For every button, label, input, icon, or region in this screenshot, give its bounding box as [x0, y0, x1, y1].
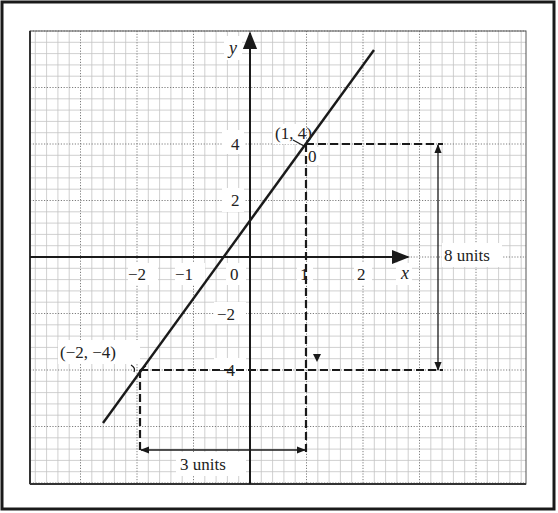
y-tick-label: −4	[217, 361, 236, 380]
point-b-label: (−2, −4)	[60, 343, 116, 362]
x-axis-label: x	[400, 263, 409, 283]
y-tick-label: 2	[231, 191, 240, 210]
figure: y x (1, 4) 0 (−2, −4) −2 −1 0 1 2 4 2 −2…	[0, 0, 558, 513]
y-tick-label: −2	[217, 305, 235, 324]
y-tick-label: 4	[231, 135, 240, 154]
rise-label: 8 units	[444, 246, 490, 265]
marker-zero-label: 0	[308, 147, 317, 166]
y-axis-label: y	[227, 38, 237, 58]
coordinate-graph: y x (1, 4) 0 (−2, −4) −2 −1 0 1 2 4 2 −2…	[0, 0, 558, 513]
x-tick-label: 2	[357, 265, 366, 284]
x-tick-label: 1	[300, 265, 309, 284]
origin-label: 0	[230, 265, 239, 284]
x-tick-label: −1	[175, 265, 193, 284]
run-label: 3 units	[180, 455, 226, 474]
point-a-label: (1, 4)	[275, 124, 312, 143]
x-tick-label: −2	[128, 265, 146, 284]
